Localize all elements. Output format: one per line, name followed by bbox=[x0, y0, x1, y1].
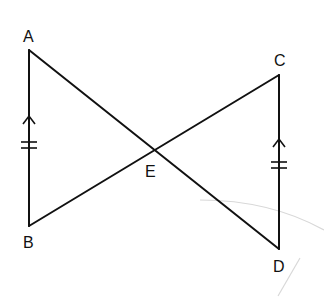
label-c: C bbox=[274, 52, 286, 69]
background-smudge bbox=[200, 200, 324, 230]
geometry-diagram: A B C D E bbox=[0, 0, 324, 301]
label-a: A bbox=[23, 28, 34, 45]
label-d: D bbox=[273, 258, 285, 275]
label-e: E bbox=[145, 163, 156, 180]
label-b: B bbox=[23, 234, 34, 251]
